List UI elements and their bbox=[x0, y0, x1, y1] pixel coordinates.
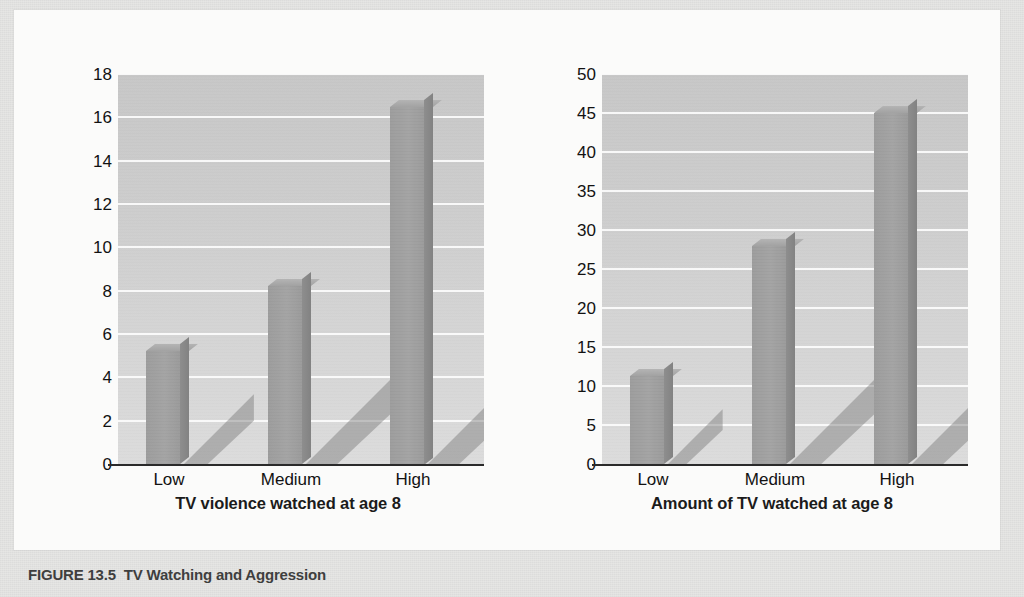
gridline bbox=[118, 74, 484, 75]
bar-shadow bbox=[668, 409, 723, 464]
y-tick-label: 14 bbox=[93, 152, 112, 169]
x-tick-label: Medium bbox=[261, 470, 321, 490]
bar-top-face bbox=[268, 279, 320, 286]
y-tick-label: 5 bbox=[587, 417, 596, 434]
chart-crime: Seriousness of crime at age 30 051015202… bbox=[510, 10, 990, 550]
x-tick-label: Low bbox=[153, 470, 184, 490]
y-axis-tick-labels-left: 024681012141618 bbox=[66, 74, 112, 464]
bar-top-face bbox=[874, 106, 926, 113]
y-tick-label: 45 bbox=[577, 105, 596, 122]
y-tick-label: 10 bbox=[93, 239, 112, 256]
bar-side-face bbox=[302, 272, 311, 464]
y-tick-label: 16 bbox=[93, 109, 112, 126]
x-tick-label: Medium bbox=[745, 470, 805, 490]
bar-shadow bbox=[428, 372, 484, 464]
y-tick-label: 10 bbox=[577, 378, 596, 395]
y-tick-label: 6 bbox=[103, 326, 112, 343]
bar bbox=[630, 376, 664, 464]
bar-side-face bbox=[424, 92, 433, 464]
x-tick-label: High bbox=[396, 470, 431, 490]
bar bbox=[146, 351, 180, 464]
y-tick-label: 20 bbox=[577, 300, 596, 317]
figure-caption: FIGURE 13.5TV Watching and Aggression bbox=[28, 566, 326, 583]
gridline bbox=[602, 74, 968, 75]
figure-panel: Aggression score at age 18 0246810121416… bbox=[14, 10, 1000, 550]
y-tick-label: 25 bbox=[577, 261, 596, 278]
y-tick-label: 12 bbox=[93, 196, 112, 213]
y-tick-label: 30 bbox=[577, 222, 596, 239]
chart-aggression: Aggression score at age 18 0246810121416… bbox=[26, 10, 506, 550]
bar-side-face bbox=[908, 99, 917, 464]
y-tick-label: 35 bbox=[577, 183, 596, 200]
bar-side-face bbox=[180, 337, 189, 464]
bar-shadow bbox=[306, 372, 398, 464]
y-tick-label: 2 bbox=[103, 412, 112, 429]
y-tick-label: 4 bbox=[103, 369, 112, 386]
bar-side-face bbox=[664, 362, 673, 464]
bar-top-face bbox=[390, 100, 442, 107]
bar bbox=[874, 113, 908, 464]
bar-top-face bbox=[146, 344, 198, 351]
bar bbox=[390, 107, 424, 465]
plot-area-left: 024681012141618 LowMediumHigh bbox=[118, 74, 484, 464]
bar bbox=[268, 286, 302, 464]
figure-number: FIGURE 13.5 bbox=[28, 566, 116, 583]
y-tick-label: 40 bbox=[577, 144, 596, 161]
bar-top-face bbox=[752, 239, 804, 246]
y-tick-label: 18 bbox=[93, 66, 112, 83]
bar-top-face bbox=[630, 369, 682, 376]
x-tick-label: High bbox=[880, 470, 915, 490]
plot-canvas-right bbox=[602, 74, 968, 464]
y-tick-label: 50 bbox=[577, 66, 596, 83]
bar-side-face bbox=[786, 232, 795, 464]
page-background: Aggression score at age 18 0246810121416… bbox=[0, 0, 1024, 597]
figure-title: TV Watching and Aggression bbox=[124, 566, 326, 583]
plot-area-right: 05101520253035404550 LowMediumHigh bbox=[602, 74, 968, 464]
x-axis-title-right: Amount of TV watched at age 8 bbox=[510, 494, 990, 513]
x-axis-line-left bbox=[108, 464, 484, 466]
y-tick-label: 15 bbox=[577, 339, 596, 356]
x-axis-line-right bbox=[592, 464, 968, 466]
y-tick-label: 8 bbox=[103, 282, 112, 299]
bar-shadow bbox=[184, 394, 254, 464]
bar bbox=[752, 246, 786, 464]
plot-canvas-left bbox=[118, 74, 484, 464]
x-axis-title-left: TV violence watched at age 8 bbox=[26, 494, 506, 513]
x-tick-label: Low bbox=[637, 470, 668, 490]
y-axis-tick-labels-right: 05101520253035404550 bbox=[550, 74, 596, 464]
